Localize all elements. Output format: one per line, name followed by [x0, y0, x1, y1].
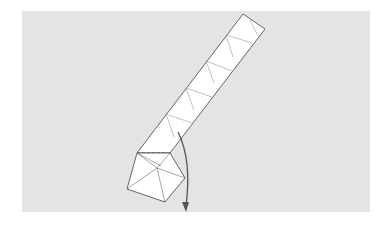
origami-diagram — [0, 0, 392, 231]
paper-strip — [137, 14, 265, 153]
pentagon-base — [127, 153, 185, 202]
arrow-head-icon — [182, 202, 189, 212]
